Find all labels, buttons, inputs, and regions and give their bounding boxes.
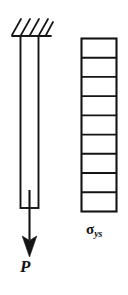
hatch-line	[21, 19, 30, 35]
load-label: P	[20, 258, 30, 275]
figure-root: P σys	[0, 0, 128, 295]
bar-body	[21, 36, 39, 208]
yield-stress-subscript: ys	[94, 228, 102, 239]
stress-column-outline	[82, 39, 117, 212]
hatch-line	[46, 22, 53, 35]
yield-stress-label: σys	[86, 222, 102, 239]
sigma-symbol: σ	[86, 221, 94, 237]
stress-block-column	[82, 39, 117, 212]
figure-canvas	[0, 0, 128, 295]
fixed-support	[12, 19, 53, 36]
support-hatch-lines	[12, 19, 53, 35]
vertical-bar	[21, 36, 39, 208]
hatch-line	[30, 19, 39, 35]
hatch-line	[12, 19, 21, 35]
